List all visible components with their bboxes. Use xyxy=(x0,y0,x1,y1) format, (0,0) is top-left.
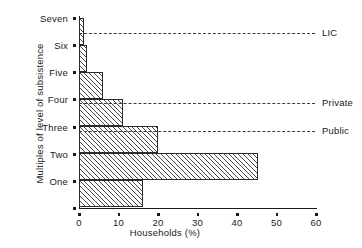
x-tick-label-60: 60 xyxy=(301,217,331,228)
y-axis-title: Multiples of level of subsistence xyxy=(34,19,45,209)
refline-public xyxy=(79,131,315,132)
x-tick-20 xyxy=(157,213,160,216)
x-tick-label-10: 10 xyxy=(104,217,134,228)
y-tick-one xyxy=(73,180,76,183)
y-label-five: Five xyxy=(49,67,68,78)
x-tick-40 xyxy=(236,213,239,216)
x-tick-0 xyxy=(78,213,81,216)
y-tick-origin xyxy=(73,207,76,210)
y-label-three: Three xyxy=(42,122,68,133)
bar-one xyxy=(79,180,143,207)
y-tick-four xyxy=(73,98,76,101)
bar-chart: Multiples of level of subsistence Househ… xyxy=(0,0,362,248)
refline-label-lic: LIC xyxy=(322,27,337,38)
x-tick-60 xyxy=(315,213,318,216)
x-tick-label-20: 20 xyxy=(143,217,173,228)
y-tick-seven xyxy=(73,17,76,20)
refline-lic xyxy=(79,33,315,34)
y-tick-six xyxy=(73,44,76,47)
y-label-two: Two xyxy=(50,149,68,160)
refline-label-public: Public xyxy=(322,125,349,136)
refline-label-private: Private xyxy=(322,97,353,108)
x-tick-label-0: 0 xyxy=(64,217,94,228)
refline-private xyxy=(79,103,315,104)
bar-five xyxy=(79,72,103,99)
y-tick-five xyxy=(73,71,76,74)
bar-seven xyxy=(79,18,84,45)
bar-three xyxy=(79,126,158,153)
x-tick-label-40: 40 xyxy=(222,217,252,228)
bar-two xyxy=(79,153,258,180)
x-axis-title: Households (%) xyxy=(0,227,330,238)
x-tick-50 xyxy=(276,213,279,216)
bar-six xyxy=(79,45,87,72)
x-axis-line xyxy=(79,208,317,209)
y-tick-two xyxy=(73,153,76,156)
x-tick-label-30: 30 xyxy=(183,217,213,228)
x-tick-label-50: 50 xyxy=(262,217,292,228)
y-label-six: Six xyxy=(54,40,68,51)
y-label-one: One xyxy=(49,176,68,187)
x-tick-10 xyxy=(118,213,121,216)
y-label-four: Four xyxy=(48,94,68,105)
x-tick-30 xyxy=(197,213,200,216)
y-tick-three xyxy=(73,126,76,129)
y-label-seven: Seven xyxy=(40,13,68,24)
